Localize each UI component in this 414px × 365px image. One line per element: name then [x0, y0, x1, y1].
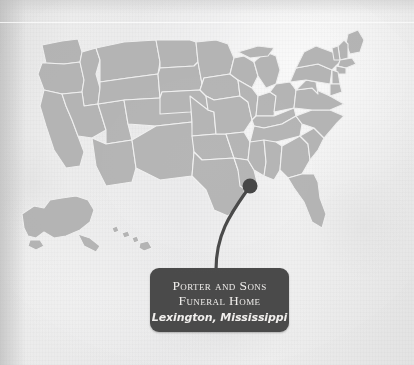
- callout-subtitle: Lexington, Mississippi: [152, 311, 287, 324]
- callout-title-line2: Funeral Home: [179, 293, 261, 308]
- callout-label: Porter and Sons Funeral Home Lexington, …: [150, 268, 289, 332]
- callout-title-line1: Porter and Sons: [172, 278, 266, 293]
- figure-canvas: Porter and Sons Funeral Home Lexington, …: [0, 0, 414, 365]
- state-shapes: [22, 30, 364, 252]
- location-dot-icon: [243, 179, 258, 194]
